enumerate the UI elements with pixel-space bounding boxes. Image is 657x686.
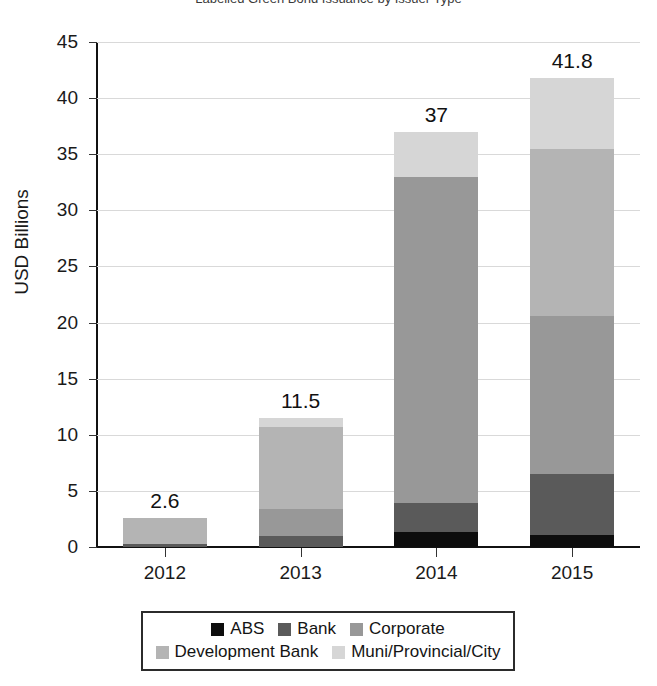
y-tick-mark (89, 266, 97, 267)
x-tick-mark (572, 548, 573, 557)
bar-segment-2012-development-bank (123, 518, 207, 544)
bar-segment-2013-bank (259, 536, 343, 547)
y-tick-mark (89, 547, 97, 548)
chart-container: 454035302520151050 2012201320142015 USD … (0, 0, 657, 686)
y-tick-label: 5 (0, 481, 78, 500)
y-tick-mark (89, 210, 97, 211)
legend-entry-muni-provincial-city[interactable]: Muni/Provincial/City (332, 642, 500, 662)
legend-label-muni-provincial-city: Muni/Provincial/City (351, 642, 500, 662)
legend-label-development-bank: Development Bank (175, 642, 319, 662)
bar-segment-2013-corporate (259, 509, 343, 536)
bar-segment-2015-development-bank (530, 149, 614, 316)
legend-swatch-abs (211, 623, 224, 636)
y-tick-mark (89, 379, 97, 380)
y-axis-label: USD Billions (12, 142, 32, 342)
bar-segment-2013-development-bank (259, 427, 343, 509)
y-tick-label: 15 (0, 369, 78, 388)
bar-segment-2014-abs (394, 532, 478, 547)
y-tick-label: 10 (0, 425, 78, 444)
plot-area: 2.611.53741.8 (97, 42, 640, 547)
bar-segment-2015-abs (530, 535, 614, 547)
legend-entry-corporate[interactable]: Corporate (350, 619, 445, 639)
legend-swatch-corporate (350, 623, 363, 636)
x-tick-mark (301, 548, 302, 557)
bar-group-2015: 41.8 (530, 42, 614, 547)
bar-total-label-2013: 11.5 (281, 390, 320, 412)
legend-entry-development-bank[interactable]: Development Bank (156, 642, 319, 662)
legend-swatch-development-bank (156, 646, 169, 659)
x-tick-mark (436, 548, 437, 557)
bar-segment-2014-corporate (394, 177, 478, 504)
bar-group-2012: 2.6 (123, 42, 207, 547)
legend-row-1: ABSBankCorporate (151, 619, 505, 639)
bar-segment-2013-muni-provincial-city (259, 418, 343, 427)
x-tick-label-2015: 2015 (512, 562, 632, 584)
y-tick-mark (89, 98, 97, 99)
x-tick-mark (165, 548, 166, 557)
bar-total-label-2014: 37 (425, 104, 448, 126)
y-tick-label: 45 (0, 32, 78, 51)
bar-segment-2015-bank (530, 474, 614, 535)
bar-segment-2015-corporate (530, 316, 614, 474)
y-tick-mark (89, 154, 97, 155)
legend-label-corporate: Corporate (369, 619, 445, 639)
bar-segment-2014-bank (394, 503, 478, 532)
legend-label-bank: Bank (297, 619, 336, 639)
y-tick-label: 0 (0, 537, 78, 556)
bar-segment-2015-muni-provincial-city (530, 78, 614, 149)
y-tick-mark (89, 323, 97, 324)
bar-total-label-2015: 41.8 (552, 50, 593, 72)
y-tick-mark (89, 435, 97, 436)
bar-group-2013: 11.5 (259, 42, 343, 547)
x-tick-label-2014: 2014 (376, 562, 496, 584)
x-tick-label-2012: 2012 (105, 562, 225, 584)
legend-swatch-muni-provincial-city (332, 646, 345, 659)
x-tick-label-2013: 2013 (241, 562, 361, 584)
y-tick-label: 40 (0, 88, 78, 107)
bar-segment-2012-bank (123, 544, 207, 547)
chart-legend: ABSBankCorporateDevelopment BankMuni/Pro… (141, 611, 515, 671)
y-tick-mark (89, 491, 97, 492)
legend-entry-abs[interactable]: ABS (211, 619, 264, 639)
bar-group-2014: 37 (394, 42, 478, 547)
y-tick-mark (89, 42, 97, 43)
legend-entry-bank[interactable]: Bank (278, 619, 336, 639)
legend-row-2: Development BankMuni/Provincial/City (151, 642, 505, 662)
bar-segment-2014-muni-provincial-city (394, 132, 478, 177)
legend-label-abs: ABS (230, 619, 264, 639)
bar-total-label-2012: 2.6 (150, 490, 179, 512)
legend-swatch-bank (278, 623, 291, 636)
